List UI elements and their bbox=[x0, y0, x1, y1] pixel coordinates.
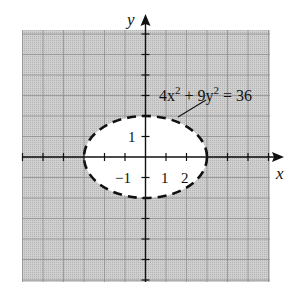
tick-label-y-1: 1 bbox=[128, 129, 136, 145]
x-axis-label: x bbox=[275, 164, 284, 183]
tick-label-x-neg1: −1 bbox=[115, 170, 131, 186]
equation-part-1: 4x bbox=[159, 87, 175, 104]
y-axis-label: y bbox=[125, 10, 135, 29]
tick-label-x-1: 1 bbox=[161, 170, 169, 186]
equation-label: 4x2 + 9y2 = 36 bbox=[159, 84, 252, 105]
inequality-graph: y x 4x2 + 9y2 = 36 1 −1 1 2 bbox=[0, 0, 295, 290]
equation-part-3: = 36 bbox=[219, 87, 252, 104]
equation-part-2: + 9y bbox=[181, 87, 214, 105]
tick-label-x-2: 2 bbox=[181, 170, 189, 186]
